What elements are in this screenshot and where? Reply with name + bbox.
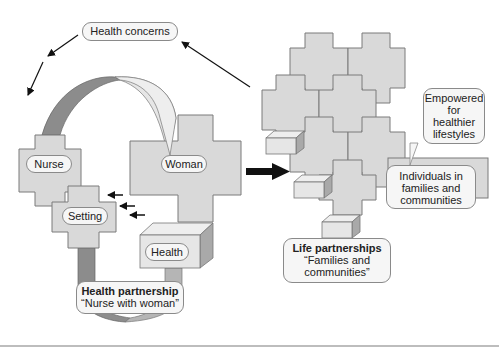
empowered-line: Empowered: [425, 92, 484, 104]
empowered-line: healthier: [433, 116, 475, 128]
health-concerns-label: Health concerns: [82, 22, 178, 41]
arrow-right-to-concerns: [182, 42, 250, 87]
big-arrow-right: [246, 163, 290, 180]
life-partnerships-title: Life partnerships: [292, 242, 381, 254]
health-partnership-title: Health partnership: [81, 285, 178, 297]
life-subtitle-line: “Families and: [304, 254, 370, 266]
health-partnership-label: Health partnership “Nurse with woman”: [76, 281, 184, 314]
individuals-label: Individuals in families and communities: [386, 165, 476, 209]
cluster-box-2: [294, 175, 332, 198]
individuals-line: families and: [402, 182, 461, 194]
individuals-line: communities: [400, 194, 462, 206]
empowered-label: Empowered for healthier lifestyles: [423, 88, 485, 144]
empowered-line: lifestyles: [433, 128, 475, 140]
health-label: Health: [145, 243, 189, 261]
empowered-line: for: [448, 104, 461, 116]
arrow-concerns-to-left-2: [28, 62, 43, 95]
individuals-line: Individuals in: [399, 170, 463, 182]
woman-label: Woman: [161, 155, 207, 173]
arrow-concerns-to-left-1: [48, 35, 78, 56]
setting-label: Setting: [62, 207, 108, 225]
cluster-box-1: [266, 131, 304, 154]
life-partnerships-label: Life partnerships “Families and communit…: [283, 238, 391, 283]
cluster-box-3: [322, 215, 360, 238]
bottom-divider: [0, 345, 499, 347]
health-partnership-subtitle: “Nurse with woman”: [81, 297, 179, 309]
life-subtitle-line: communities”: [304, 266, 369, 278]
nurse-label: Nurse: [26, 155, 72, 173]
